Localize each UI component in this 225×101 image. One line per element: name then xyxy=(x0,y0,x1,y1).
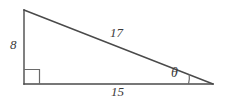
label-vertical-leg: 8 xyxy=(10,38,17,51)
label-angle-theta: θ xyxy=(171,66,178,80)
label-horizontal-leg: 15 xyxy=(111,85,124,98)
angle-arc xyxy=(189,74,190,84)
right-angle-square xyxy=(24,70,40,85)
label-hypotenuse: 17 xyxy=(110,26,123,39)
geometry-diagram: 8 17 15 θ xyxy=(0,0,225,101)
side-hypotenuse xyxy=(24,10,213,84)
